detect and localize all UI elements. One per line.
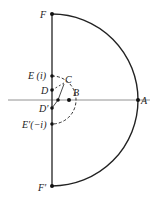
segment-to-c [58,84,64,100]
label-b: B [73,87,79,98]
contour-diagram: F F′ A B C D D′ E (i) E′(−i) [0,0,155,201]
label-a: A [140,95,148,106]
label-d-prime: D′ [38,103,49,114]
point-d-prime [50,106,54,110]
label-e-prime: E′(−i) [21,119,47,131]
point-f-prime [50,184,54,188]
label-e: E (i) [27,70,47,82]
label-d: D [40,85,49,96]
point-f [50,12,54,16]
point-a [136,98,140,102]
point-e-prime [50,122,54,126]
point-b [67,98,71,102]
point-e [50,74,54,78]
label-c: C [65,74,72,85]
label-f-prime: F′ [37,182,47,193]
point-origin-offset [56,98,60,102]
point-d [50,88,54,92]
label-f: F [39,9,47,20]
